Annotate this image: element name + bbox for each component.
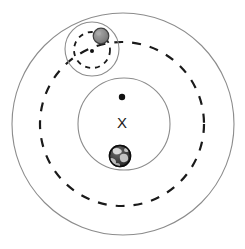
barycenter-x-marker: X: [117, 114, 127, 131]
earth-globe: [109, 145, 131, 167]
moon-center-dot: [90, 49, 94, 53]
moon-sphere: [93, 28, 109, 44]
barycenter-diagram: X: [0, 0, 245, 249]
orbit-diagram-svg: X: [0, 0, 245, 249]
earth-center-dot: [119, 94, 125, 100]
